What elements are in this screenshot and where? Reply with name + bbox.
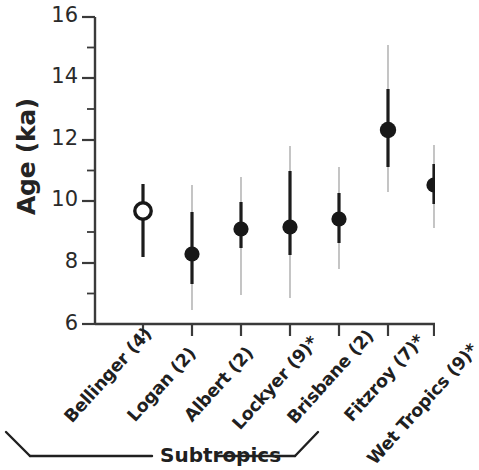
x-ticks — [143, 324, 434, 336]
marker-filled-circle — [380, 122, 396, 138]
marker-open-circle — [135, 203, 151, 219]
data-point-fitzroy — [380, 45, 396, 192]
group-label-subtropics: Subtropics — [160, 443, 281, 467]
marker-filled-circle — [331, 211, 346, 226]
y-tick-label-14: 14 — [0, 66, 78, 87]
marker-filled-circle — [426, 177, 435, 192]
y-tick-label-10: 10 — [0, 189, 78, 210]
data-point-lockyer — [282, 146, 297, 298]
marker-filled-circle — [233, 221, 248, 236]
y-tick-label-8: 8 — [0, 251, 78, 272]
y-tick-label-16: 16 — [0, 5, 78, 26]
data-point-brisbane — [331, 167, 346, 269]
data-point-bellinger — [135, 184, 151, 257]
data-point-albert — [233, 177, 248, 295]
y-axis-title: Age (ka) — [12, 77, 41, 237]
data-point-wet-tropics — [426, 145, 435, 228]
y-tick-label-6: 6 — [0, 313, 78, 334]
marker-filled-circle — [282, 219, 297, 234]
y-tick-label-12: 12 — [0, 128, 78, 149]
data-point-logan — [184, 185, 199, 310]
marker-filled-circle — [184, 246, 199, 261]
